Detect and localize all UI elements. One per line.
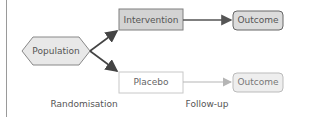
outcome-top-label: Outcome [237, 15, 278, 25]
placebo-label: Placebo [133, 77, 168, 87]
randomisation-label: Randomisation [50, 99, 117, 109]
arrow-population-placebo [90, 51, 117, 71]
followup-label: Follow-up [186, 99, 229, 109]
population-label: Population [32, 46, 79, 56]
intervention-label: Intervention [124, 15, 179, 25]
outcome-bottom-label: Outcome [237, 77, 278, 87]
arrow-population-intervention [90, 31, 117, 51]
